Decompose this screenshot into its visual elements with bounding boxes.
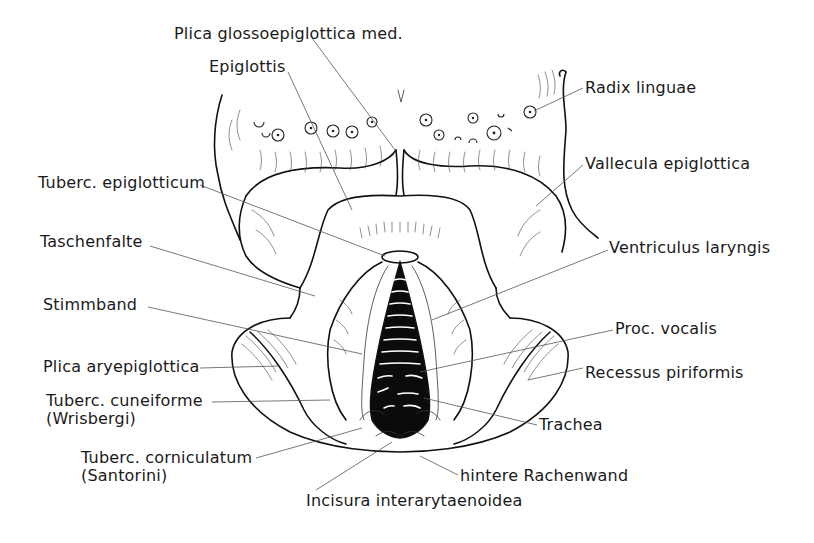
label-hintere-rachenwand: hintere Rachenwand xyxy=(460,467,628,485)
label-tuberc-epiglotticum: Tuberc. epiglotticum xyxy=(38,174,205,192)
label-plica-aryepiglottica: Plica aryepiglottica xyxy=(43,358,200,376)
label-tuberc-corniculatum: Tuberc. corniculatum (Santorini) xyxy=(81,449,252,485)
label-vallecula-epiglottica: Vallecula epiglottica xyxy=(585,155,750,173)
label-epiglottis: Epiglottis xyxy=(209,58,285,76)
label-radix-linguae: Radix linguae xyxy=(585,79,696,97)
label-recessus-piriformis: Recessus piriformis xyxy=(585,364,744,382)
label-proc-vocalis: Proc. vocalis xyxy=(615,320,717,338)
label-stimmband: Stimmband xyxy=(43,296,137,314)
papillae-right xyxy=(420,106,536,143)
label-incisura-interarytaenoidea: Incisura interarytaenoidea xyxy=(306,492,522,510)
label-taschenfalte: Taschenfalte xyxy=(40,233,143,251)
label-tuberc-cuneiforme: Tuberc. cuneiforme (Wrisbergi) xyxy=(46,392,203,428)
papillae-left xyxy=(254,117,377,141)
label-ventriculus-laryngis: Ventriculus laryngis xyxy=(609,239,770,257)
label-trachea: Trachea xyxy=(539,416,603,434)
label-plica-glossoepiglottica-med: Plica glossoepiglottica med. xyxy=(174,25,403,43)
tongue-base xyxy=(215,70,598,240)
vallecula-region xyxy=(239,146,565,288)
